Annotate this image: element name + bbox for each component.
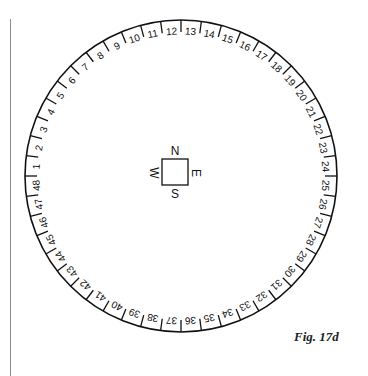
- tick-mark: [26, 156, 38, 158]
- tick-mark: [71, 66, 79, 74]
- compass-dial: 1234567891011121314151617181920212223242…: [0, 0, 368, 376]
- dial-label: 33: [237, 299, 252, 314]
- dial-label: 36: [184, 315, 196, 327]
- tick-mark: [200, 21, 202, 33]
- dial-label: 15: [221, 32, 235, 46]
- tick-mark: [121, 32, 126, 43]
- dial-label: 40: [109, 298, 124, 313]
- tick-mark: [306, 98, 316, 104]
- figure-caption: Fig. 17d: [294, 329, 339, 345]
- dial-label: 18: [269, 59, 285, 75]
- dial-label: 16: [238, 39, 253, 54]
- tick-mark: [200, 319, 202, 331]
- dial-label: 29: [294, 249, 310, 265]
- dial-label: 12: [166, 25, 178, 37]
- tick-mark: [324, 195, 336, 197]
- dial-label: 47: [32, 197, 45, 210]
- tick-mark: [141, 25, 144, 37]
- tick-mark: [86, 52, 93, 62]
- tick-mark: [320, 213, 332, 216]
- tick-mark: [218, 25, 221, 37]
- dial-label: 46: [37, 215, 51, 229]
- tick-mark: [37, 231, 48, 236]
- tick-mark: [314, 231, 325, 236]
- dial-label: 43: [64, 263, 80, 279]
- dial-label: 24: [320, 161, 332, 173]
- tick-mark: [236, 309, 241, 320]
- tick-mark: [161, 21, 163, 33]
- dial-label: 4: [45, 107, 58, 117]
- dial-label: 20: [294, 88, 310, 104]
- tick-mark: [30, 136, 42, 139]
- dial-tick-marks: [25, 20, 337, 332]
- dial-label: 39: [127, 306, 141, 320]
- dial-label: 48: [30, 179, 42, 191]
- dial-label: 11: [147, 27, 160, 40]
- dial-label: 31: [268, 277, 284, 293]
- tick-mark: [121, 309, 126, 320]
- dial-label: 32: [254, 289, 270, 305]
- north-label: N: [171, 144, 180, 158]
- tick-mark: [141, 315, 144, 327]
- tick-mark: [57, 81, 67, 88]
- dial-label: 17: [254, 48, 270, 64]
- dial-label: 9: [112, 40, 122, 53]
- south-label: S: [171, 187, 179, 201]
- dial-label: 2: [33, 143, 45, 151]
- compass-square: [162, 159, 188, 185]
- tick-mark: [30, 213, 42, 216]
- tick-mark: [37, 116, 48, 121]
- dial-label: 6: [66, 74, 78, 86]
- compass-square-group: N S E W: [147, 144, 203, 201]
- dial-label: 28: [303, 233, 318, 248]
- tick-mark: [218, 315, 221, 327]
- east-label: E: [189, 169, 203, 177]
- dial-label: 23: [317, 141, 330, 154]
- dial-label: 7: [80, 61, 92, 73]
- dial-label: 34: [220, 306, 234, 320]
- tick-mark: [324, 156, 336, 158]
- west-label: W: [147, 167, 161, 179]
- dial-label: 3: [38, 125, 50, 134]
- dial-label: 35: [202, 312, 215, 325]
- tick-mark: [320, 136, 332, 139]
- dial-label: 41: [92, 289, 108, 305]
- tick-mark: [161, 319, 163, 331]
- dial-label: 13: [185, 25, 197, 37]
- dial-label: 38: [146, 312, 159, 325]
- dial-label: 27: [311, 216, 325, 230]
- tick-mark: [26, 195, 38, 197]
- dial-label: 30: [282, 264, 298, 280]
- tick-mark: [253, 301, 259, 311]
- dial-label: 5: [54, 90, 66, 101]
- tick-mark: [46, 248, 56, 254]
- tick-mark: [46, 98, 56, 104]
- dial-label: 22: [311, 122, 325, 136]
- tick-mark: [103, 41, 109, 51]
- dial-label: 45: [43, 232, 58, 247]
- dial-label: 42: [77, 277, 93, 293]
- dial-label: 10: [127, 32, 141, 46]
- dial-label: 37: [165, 315, 177, 327]
- dial-label: 14: [203, 27, 216, 40]
- tick-mark: [314, 116, 325, 121]
- dial-label: 19: [282, 73, 298, 89]
- tick-mark: [236, 32, 241, 43]
- dial-label: 26: [317, 198, 330, 211]
- dial-label: 25: [320, 180, 332, 192]
- dial-label: 1: [31, 163, 42, 170]
- dial-label: 8: [95, 49, 106, 61]
- dial-label: 44: [53, 249, 69, 265]
- dial-label: 21: [304, 104, 319, 119]
